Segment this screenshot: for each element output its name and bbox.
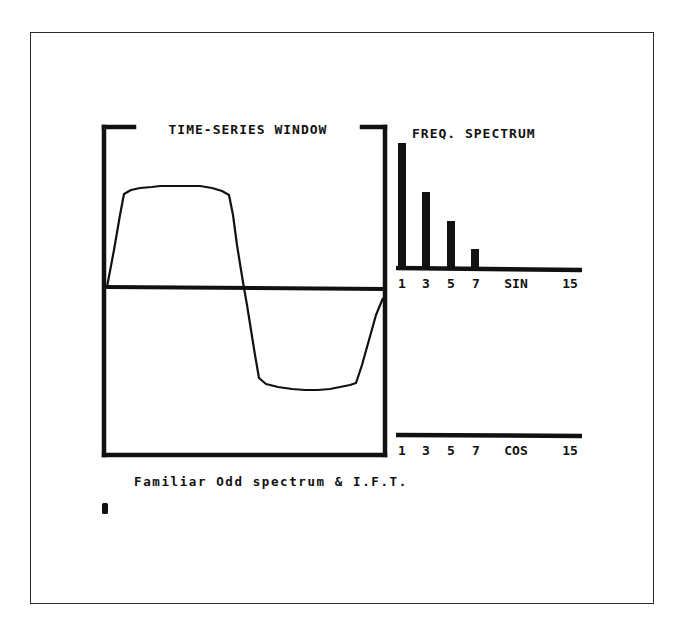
sin-axis-labels: 1 3 5 7 SIN 15 — [398, 276, 578, 291]
svg-text:7: 7 — [472, 276, 480, 291]
display-canvas: TIME-SERIES WINDOW FREQ. SPECTRUM 1 3 5 … — [0, 0, 680, 627]
sin-bar-1 — [398, 143, 406, 269]
svg-text:SIN: SIN — [504, 276, 528, 291]
svg-text:1: 1 — [398, 276, 406, 291]
sin-bar-7 — [471, 249, 479, 269]
sin-bar-5 — [447, 221, 455, 269]
caption: Familiar Odd spectrum & I.F.T. — [134, 474, 408, 489]
spectrum-title: FREQ. SPECTRUM — [412, 126, 536, 141]
svg-text:15: 15 — [562, 276, 578, 291]
svg-text:7: 7 — [472, 443, 480, 458]
svg-text:5: 5 — [447, 276, 455, 291]
svg-text:3: 3 — [422, 443, 430, 458]
cos-baseline — [396, 435, 582, 436]
svg-text:COS: COS — [504, 443, 528, 458]
sin-baseline — [396, 268, 582, 270]
svg-text:15: 15 — [562, 443, 578, 458]
text-cursor — [102, 503, 108, 514]
time-series-title: TIME-SERIES WINDOW — [169, 122, 328, 137]
svg-text:5: 5 — [447, 443, 455, 458]
svg-text:3: 3 — [422, 276, 430, 291]
svg-text:1: 1 — [398, 443, 406, 458]
cos-axis-labels: 1 3 5 7 COS 15 — [398, 443, 578, 458]
sin-bar-3 — [422, 192, 430, 269]
sin-spectrum-bars — [398, 143, 479, 269]
